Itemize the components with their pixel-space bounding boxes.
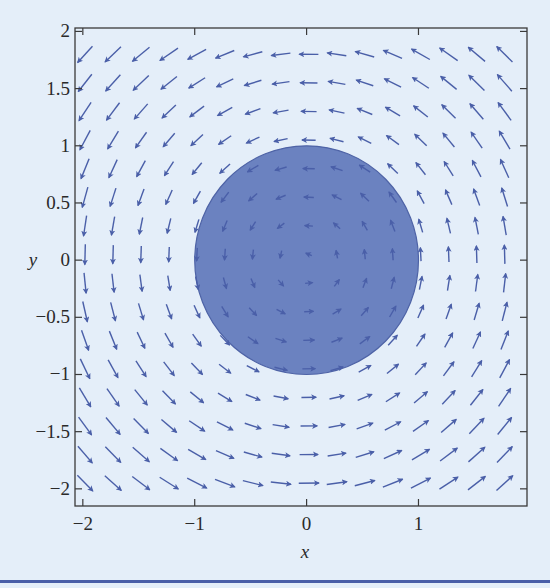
field-arrow [136, 361, 146, 377]
field-arrow [330, 138, 343, 141]
field-arrow [112, 274, 114, 293]
field-arrow [330, 396, 345, 399]
y-tick-label: 2 [61, 20, 71, 41]
field-arrow [414, 106, 428, 117]
field-arrow [327, 53, 346, 56]
field-arrow [219, 136, 232, 145]
field-arrow [191, 134, 203, 145]
field-arrow [105, 447, 120, 463]
field-arrow [84, 216, 87, 236]
field-arrow [193, 191, 200, 203]
field-arrow [497, 75, 511, 92]
field-arrow [364, 250, 365, 260]
field-arrow [497, 47, 513, 62]
field-arrow [358, 137, 371, 143]
field-arrow [217, 79, 234, 87]
y-tick-label: 0.5 [46, 192, 70, 213]
field-arrow [135, 132, 146, 148]
vector-field-chart: −2−101−2−1.5−1−0.500.511.52 x y [0, 0, 550, 588]
field-arrow [384, 79, 401, 87]
field-arrow [137, 161, 146, 177]
field-arrow [469, 75, 485, 90]
field-arrow [246, 395, 260, 401]
field-arrow [383, 479, 403, 487]
field-arrow [225, 249, 226, 260]
field-arrow [160, 48, 178, 60]
field-arrow [358, 394, 372, 400]
field-arrow [476, 246, 477, 263]
field-arrow [357, 108, 372, 114]
field-arrow [82, 187, 88, 207]
field-arrow [413, 421, 428, 432]
field-arrow [383, 50, 402, 58]
field-arrow [274, 396, 289, 399]
field-arrow [161, 420, 176, 433]
field-arrow [447, 218, 451, 233]
field-arrow [329, 110, 344, 113]
field-arrow [386, 393, 400, 402]
field-arrow [419, 276, 422, 289]
field-arrow [133, 447, 150, 461]
field-arrow [244, 452, 262, 457]
field-arrow [472, 160, 481, 176]
field-arrow [81, 159, 89, 179]
field-arrow [80, 359, 90, 379]
field-arrow [161, 77, 177, 90]
field-arrow [246, 137, 259, 143]
field-arrow [416, 163, 426, 175]
field-arrow [327, 482, 347, 485]
bottom-divider [0, 580, 550, 583]
field-arrow [111, 217, 114, 235]
field-arrow [328, 81, 345, 84]
field-arrow [474, 303, 479, 320]
field-arrow [79, 388, 90, 407]
field-arrow [445, 190, 451, 205]
field-arrow [106, 418, 120, 435]
field-arrow [415, 363, 426, 375]
field-arrow [442, 391, 455, 405]
field-arrow [83, 301, 88, 321]
y-tick-label: −1 [50, 363, 70, 384]
field-arrow [165, 333, 173, 347]
field-arrow [476, 275, 478, 292]
field-arrow [244, 80, 261, 85]
x-tick-label: 0 [302, 513, 312, 534]
field-arrow [243, 52, 262, 57]
field-arrow [140, 275, 142, 292]
field-arrow [134, 104, 147, 119]
field-arrow [475, 217, 478, 234]
field-arrow [385, 107, 400, 116]
field-arrow [191, 363, 202, 374]
field-arrow [473, 332, 481, 349]
field-arrow [305, 283, 312, 284]
field-arrow [247, 366, 259, 372]
field-arrow [470, 104, 483, 120]
field-arrow [274, 139, 287, 142]
field-arrow [439, 477, 457, 489]
y-tick-label: −2 [50, 478, 70, 499]
field-arrow [387, 135, 399, 144]
field-arrow [141, 246, 142, 263]
field-arrow [272, 82, 289, 85]
field-arrow [447, 275, 449, 290]
field-arrow [113, 245, 114, 264]
field-arrow [84, 273, 86, 293]
field-arrow [137, 332, 145, 348]
x-axis-label: x [300, 541, 310, 562]
field-arrow [446, 304, 451, 319]
field-arrow [80, 130, 90, 149]
y-tick-label: 0 [61, 249, 71, 270]
field-arrow [500, 159, 508, 177]
x-tick-label: −2 [73, 513, 93, 534]
field-arrow [163, 133, 175, 147]
field-arrow [471, 132, 482, 148]
field-arrow [85, 244, 86, 264]
field-arrow [445, 333, 453, 347]
field-arrow [356, 80, 373, 86]
field-arrow [133, 75, 149, 90]
field-arrow [109, 331, 116, 349]
field-arrow [440, 448, 457, 461]
field-arrow [502, 302, 507, 321]
field-arrow [273, 110, 288, 113]
field-arrow [79, 102, 91, 120]
